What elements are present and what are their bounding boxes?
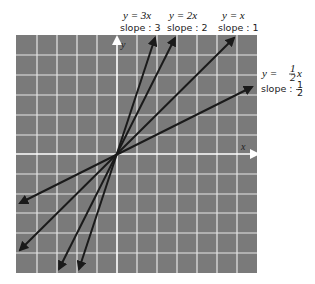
label-y-2x: y = 2x slope : 2 xyxy=(167,9,208,33)
svg-text:slope : 1: slope : 1 xyxy=(218,22,259,33)
svg-text:y =: y = xyxy=(261,67,277,79)
svg-text:y = 3x: y = 3x xyxy=(122,9,151,21)
svg-text:slope :: slope : xyxy=(261,83,293,94)
label-y-3x: y = 3x slope : 3 xyxy=(120,9,161,33)
svg-text:2: 2 xyxy=(297,87,303,98)
slope-diagram: y x y = 3x slope : 3 y = 2x slope : 2 y … xyxy=(0,0,315,284)
x-axis-label: x xyxy=(240,141,246,152)
svg-text:2: 2 xyxy=(290,71,296,83)
svg-text:slope : 2: slope : 2 xyxy=(167,22,208,33)
svg-text:x: x xyxy=(296,67,302,79)
y-axis-label: y xyxy=(120,39,126,50)
svg-text:slope : 3: slope : 3 xyxy=(120,22,161,33)
label-y-x: y = x slope : 1 xyxy=(218,9,259,33)
svg-text:y = 2x: y = 2x xyxy=(168,9,197,21)
svg-text:y = x: y = x xyxy=(221,9,245,21)
label-y-half-x: y = 1 2 x slope : 1 2 xyxy=(261,62,303,98)
